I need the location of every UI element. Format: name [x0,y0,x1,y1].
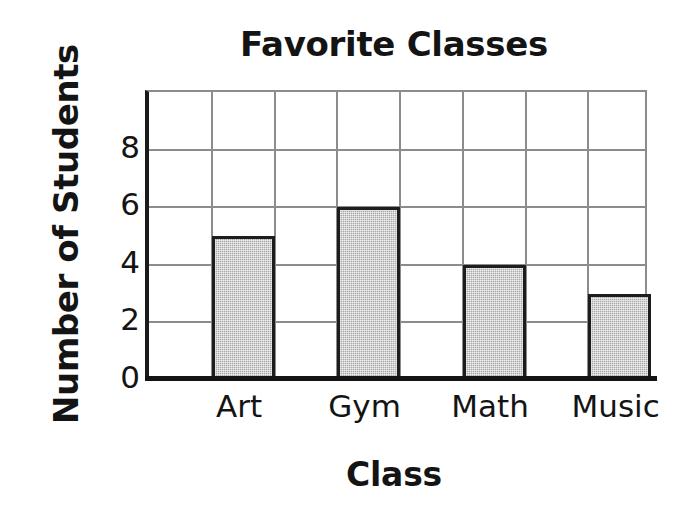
chart-title: Favorite Classes [140,24,648,64]
x-tick-label-math: Math [420,391,560,422]
x-tick-label-gym: Gym [295,391,435,422]
bar-gym [337,207,400,380]
gridline-horizontal [149,149,645,151]
x-axis-baseline [145,376,657,381]
y-tick-label-8: 8 [98,132,140,163]
x-tick-label-music: Music [546,391,676,422]
y-axis-tick-labels: 02468 [56,0,140,522]
y-tick-label-2: 2 [98,304,140,335]
x-tick-label-art: Art [169,391,309,422]
bar-art [212,236,275,380]
bar-music [588,294,651,380]
plot-area [145,90,647,378]
bar-math [463,265,526,380]
y-tick-label-6: 6 [98,189,140,220]
x-axis-label: Class [140,455,648,494]
y-tick-label-0: 0 [98,362,140,393]
y-tick-label-4: 4 [98,247,140,278]
